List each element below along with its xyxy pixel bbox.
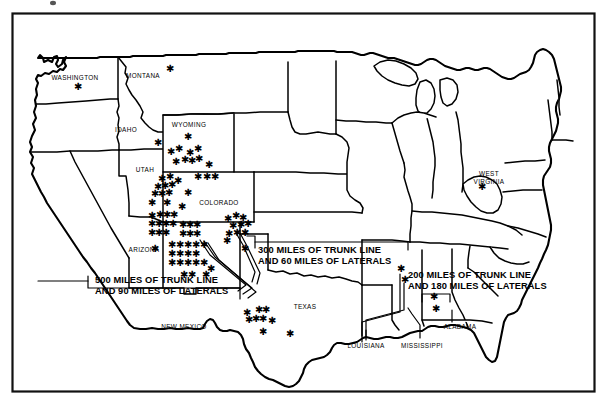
- state-label-colorado: COLORADO: [199, 199, 238, 206]
- state-label-washington: WASHINGTON: [51, 74, 98, 81]
- star-marker: ✱: [192, 257, 200, 268]
- callout-central-line1: 300 MILES OF TRUNK LINE: [258, 245, 381, 255]
- star-marker: ✱: [430, 291, 438, 302]
- state-label-texas: TEXAS: [294, 303, 317, 310]
- star-marker: ✱: [203, 171, 211, 182]
- star-marker: ✱: [268, 315, 276, 326]
- star-marker: ✱: [174, 175, 182, 186]
- scan-speck: [50, 1, 56, 5]
- state-label-louisiana: LOUISIANA: [347, 342, 385, 349]
- state-label-mississippi: MISSISSIPPI: [401, 342, 443, 349]
- state-label-wyoming: WYOMING: [172, 121, 206, 128]
- star-marker: ✱: [259, 313, 267, 324]
- map-figure: ✱ ✱ ✱ ✱ ✱ ✱ ✱ ✱ ✱ ✱ ✱ ✱ ✱ ✱ ✱ ✱ ✱ ✱ ✱ ✱ …: [0, 0, 605, 404]
- star-marker: ✱: [184, 187, 192, 198]
- star-marker: ✱: [166, 63, 174, 74]
- star-marker: ✱: [207, 263, 215, 274]
- state-label-west-virginia-line1: WEST: [479, 170, 499, 177]
- star-marker: ✱: [432, 303, 440, 314]
- star-marker: ✱: [175, 143, 183, 154]
- star-marker: ✱: [193, 228, 201, 239]
- star-marker: ✱: [162, 227, 170, 238]
- star-marker: ✱: [195, 153, 203, 164]
- state-label-west-virginia-line2: VIRGINIA: [474, 178, 505, 185]
- star-marker: ✱: [184, 257, 192, 268]
- star-marker: ✱: [154, 137, 162, 148]
- star-marker: ✱: [148, 197, 156, 208]
- star-marker: ✱: [259, 326, 267, 337]
- star-marker: ✱: [176, 257, 184, 268]
- star-marker: ✱: [74, 81, 82, 92]
- state-label-montana: MONTANA: [126, 72, 160, 79]
- callout-central-line2: AND 60 MILES OF LATERALS: [258, 256, 391, 266]
- star-marker: ✱: [178, 201, 186, 212]
- star-marker: ✱: [168, 257, 176, 268]
- state-label-utah: UTAH: [136, 166, 154, 173]
- star-marker: ✱: [205, 159, 213, 170]
- state-label-alabama: ALABAMA: [444, 323, 477, 330]
- star-marker: ✱: [211, 171, 219, 182]
- star-marker: ✱: [169, 218, 177, 229]
- star-marker: ✱: [163, 197, 171, 208]
- state-label-new-mexico: NEW MEXICO: [161, 323, 206, 330]
- star-marker: ✱: [286, 328, 294, 339]
- callout-west-line1: 500 MILES OF TRUNK LINE: [95, 275, 218, 285]
- star-marker: ✱: [223, 235, 231, 246]
- state-label-arizona: ARIZONA: [129, 246, 160, 253]
- star-marker: ✱: [194, 171, 202, 182]
- callout-west-line2: AND 90 MILES OF LATERALS: [95, 286, 228, 296]
- star-marker: ✱: [184, 131, 192, 142]
- callout-gulf-line2: AND 180 MILES OF LATERALS: [408, 281, 547, 291]
- star-marker: ✱: [172, 156, 180, 167]
- state-label-idaho: IDAHO: [115, 126, 137, 133]
- callout-gulf-line1: 200 MILES OF TRUNK LINE: [408, 270, 531, 280]
- star-marker: ✱: [397, 263, 405, 274]
